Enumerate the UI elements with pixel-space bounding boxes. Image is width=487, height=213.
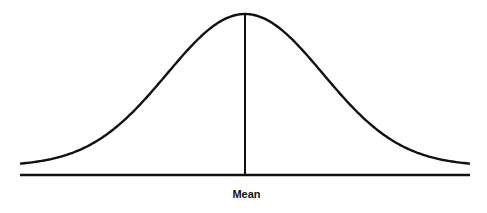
mean-label: Mean	[232, 188, 260, 200]
mean-label-container: Mean	[0, 188, 487, 200]
bell-curve-chart	[0, 0, 487, 213]
